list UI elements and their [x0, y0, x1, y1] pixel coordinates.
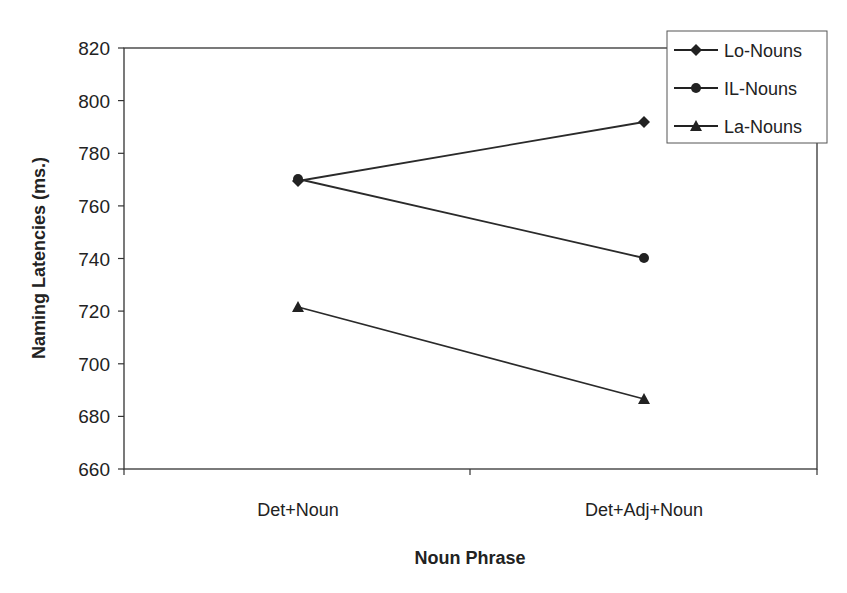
y-tick-label: 780 [78, 143, 110, 164]
y-tick-labels: 820 800 780 760 740 720 700 680 660 [78, 38, 110, 480]
x-axis-title: Noun Phrase [414, 548, 525, 568]
legend-label: Lo-Nouns [724, 41, 802, 61]
y-tick-label: 660 [78, 459, 110, 480]
y-tick-label: 760 [78, 196, 110, 217]
circle-marker-icon [639, 253, 649, 263]
y-tick-label: 800 [78, 91, 110, 112]
y-tick-label: 820 [78, 38, 110, 59]
circle-marker-icon [293, 174, 303, 184]
x-category-label: Det+Adj+Noun [585, 500, 703, 520]
triangle-marker-icon [292, 301, 304, 312]
x-category-label: Det+Noun [257, 500, 339, 520]
x-axis [124, 469, 817, 475]
y-tick-label: 680 [78, 406, 110, 427]
legend-label: La-Nouns [724, 117, 802, 137]
y-axis-title: Naming Latencies (ms.) [29, 157, 49, 359]
y-tick-label: 720 [78, 301, 110, 322]
series-line-il-nouns [298, 179, 644, 258]
y-tick-label: 700 [78, 354, 110, 375]
legend-label: IL-Nouns [724, 79, 797, 99]
legend: Lo-Nouns IL-Nouns La-Nouns [667, 31, 827, 143]
series-line-la-nouns [298, 307, 644, 399]
y-axis [118, 48, 124, 469]
line-chart: 820 800 780 760 740 720 700 680 660 Det+… [0, 0, 847, 593]
circle-marker-icon [691, 83, 701, 93]
y-tick-label: 740 [78, 249, 110, 270]
diamond-marker-icon [638, 116, 650, 128]
series-line-lo-nouns [298, 122, 644, 181]
